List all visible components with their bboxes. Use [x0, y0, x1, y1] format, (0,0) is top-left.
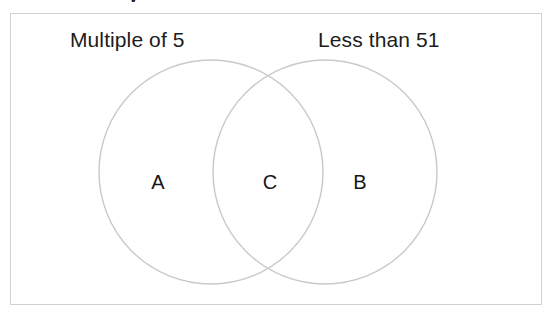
clipped-text-fragment: y — [128, 0, 168, 2]
set-label-left: Multiple of 5 — [70, 27, 185, 53]
region-label-b: B — [340, 172, 380, 192]
region-label-a: A — [138, 172, 178, 192]
figure-frame — [10, 13, 542, 305]
venn-diagram-screenshot: y Multiple of 5 Less than 51 A C B — [0, 0, 555, 319]
set-label-right: Less than 51 — [318, 27, 439, 53]
region-label-c: C — [250, 172, 290, 192]
